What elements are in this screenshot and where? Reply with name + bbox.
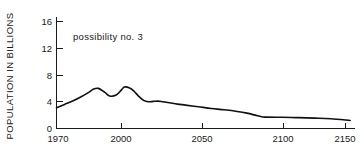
x-tick-label-2150: 2150: [334, 133, 355, 144]
x-tick-label-2050: 2050: [191, 133, 212, 144]
population-line-chart: POPULATION IN BILLIONS 16 12 8 4 0 197: [0, 0, 362, 159]
y-axis-tick-labels: 16 12 8 4 0: [41, 16, 52, 134]
x-axis-ticks: [122, 123, 346, 129]
y-tick-label-4: 4: [47, 96, 52, 107]
x-tick-label-2100: 2100: [272, 133, 293, 144]
y-tick-label-8: 8: [47, 70, 52, 81]
x-tick-label-2000: 2000: [110, 133, 131, 144]
chart-figure: POPULATION IN BILLIONS 16 12 8 4 0 197: [0, 0, 362, 159]
y-axis-title: POPULATION IN BILLIONS: [4, 13, 15, 140]
y-tick-label-16: 16: [41, 16, 52, 27]
y-tick-label-12: 12: [41, 43, 52, 54]
population-series-line: [57, 87, 351, 121]
x-tick-label-1970: 1970: [47, 133, 68, 144]
chart-annotation: possibility no. 3: [73, 31, 143, 42]
y-axis-ticks: [57, 22, 63, 102]
x-axis-tick-labels: 1970 2000 2050 2100 2150: [47, 133, 355, 144]
